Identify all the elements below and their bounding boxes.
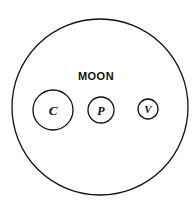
moon-title: MOON: [78, 70, 114, 82]
circle-p: P: [88, 97, 114, 123]
circle-p-label: P: [97, 104, 105, 118]
circle-v-label: V: [144, 103, 153, 115]
moon-diagram: MOON C P V: [0, 0, 196, 208]
circle-c: C: [33, 90, 73, 130]
circle-v: V: [138, 99, 158, 119]
circle-c-label: C: [49, 103, 58, 118]
